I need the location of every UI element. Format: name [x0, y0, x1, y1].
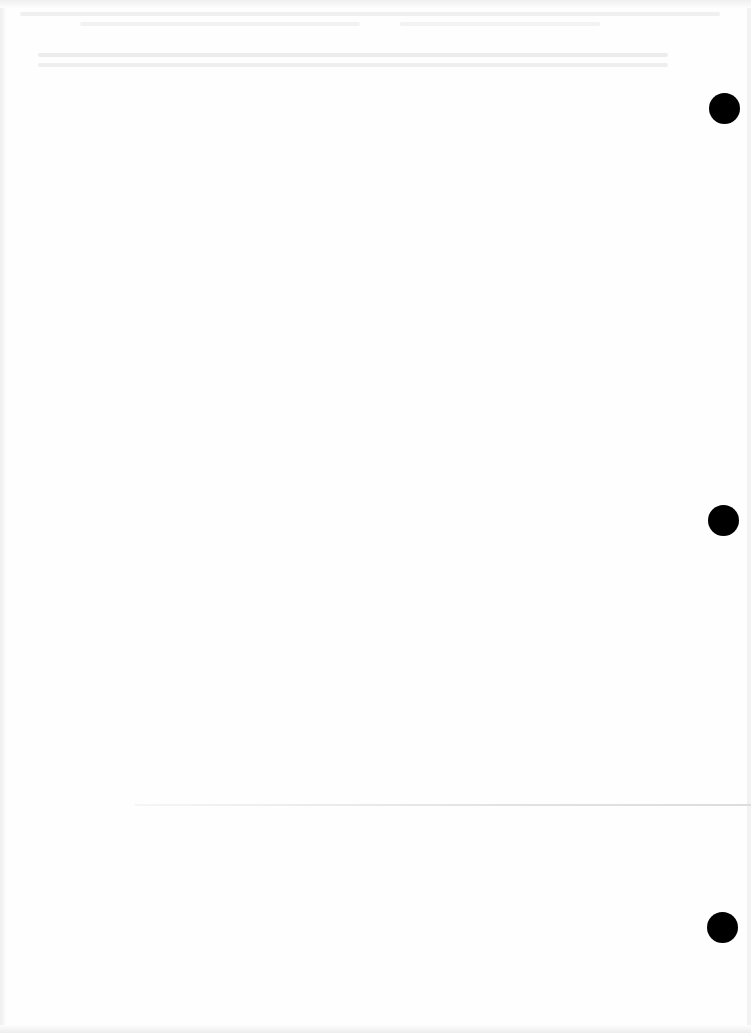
bleed-through-line — [80, 22, 360, 26]
bleed-through-line — [38, 63, 668, 67]
fold-line — [135, 804, 751, 806]
page-edge-top — [0, 0, 751, 8]
bleed-through-line — [38, 53, 668, 57]
binder-hole-icon — [707, 912, 738, 943]
binder-hole-icon — [709, 93, 740, 124]
scanned-page — [0, 0, 751, 1033]
bleed-through-line — [20, 12, 720, 16]
page-edge-bottom — [0, 1025, 751, 1033]
bleed-through-line — [400, 22, 600, 26]
page-edge-left — [0, 0, 6, 1033]
binder-hole-icon — [708, 505, 739, 536]
page-edge-right — [747, 0, 751, 1033]
